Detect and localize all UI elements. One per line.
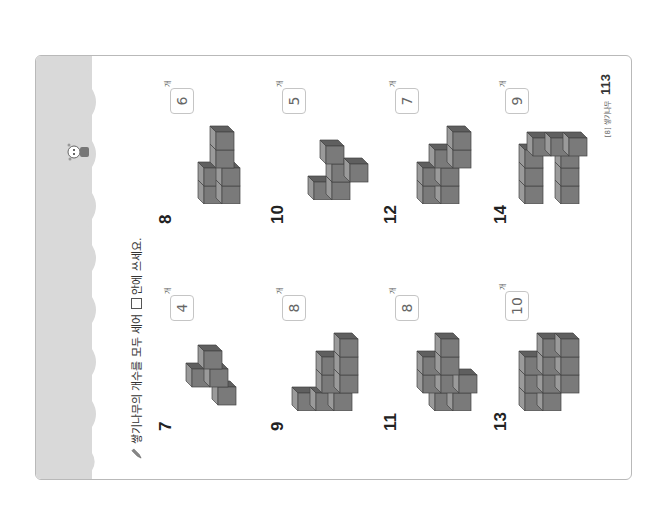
instruction-text-end: 안에 쓰세요. [128,238,144,295]
problem-12: 12 7 개 [381,55,491,224]
problem-number: 8 [156,215,176,224]
problem-11: 11 8 개 [381,231,491,431]
unit-label: 개 [387,288,397,294]
answer-box[interactable]: 9 [505,88,529,114]
problem-number: 11 [381,413,401,431]
answer-box[interactable]: 10 [505,291,529,321]
header-band [36,56,92,479]
problem-9: 9 8 개 [268,231,378,431]
problem-number: 10 [268,205,288,224]
problem-13: 13 10 개 [491,231,601,431]
problem-number: 9 [268,422,288,431]
mascot-illustration [66,141,92,163]
cube-figure [178,321,258,411]
unit-label: 개 [387,81,397,87]
unit-label: 개 [497,81,507,87]
unit-label: 개 [162,81,172,87]
problem-14: 14 9 개 [491,55,601,224]
problem-8: 8 6 개 [156,55,266,224]
problem-10: 10 5 개 [268,55,378,224]
pencil-icon [131,448,142,459]
instruction: 쌓기나무의 개수를 모두 세어 안에 쓰세요. [128,238,144,460]
answer-box[interactable]: 8 [395,295,419,321]
answer-box[interactable]: 8 [282,295,306,321]
unit-label: 개 [274,288,284,294]
chapter-label: [8] 쌓기나무 [602,101,612,137]
worksheet-page: 쌓기나무의 개수를 모두 세어 안에 쓰세요. 7 4 개 8 [35,55,632,480]
page-frame: 쌓기나무의 개수를 모두 세어 안에 쓰세요. 7 4 개 8 [35,55,632,480]
answer-box[interactable]: 4 [170,295,194,321]
answer-box[interactable]: 6 [170,88,194,114]
answer-box[interactable]: 5 [282,88,306,114]
unit-label: 개 [274,81,284,87]
cube-figure [290,100,370,200]
problem-number: 14 [491,205,511,224]
instruction-text: 쌓기나무의 개수를 모두 세어 [128,314,144,445]
problem-number: 13 [491,412,511,431]
page-number: 113 [598,74,613,95]
unit-label: 개 [497,284,507,290]
answer-box-symbol [131,299,142,310]
page-footer: [8] 쌓기나무 113 [598,74,613,137]
problem-7: 7 4 개 [156,231,266,431]
unit-label: 개 [162,288,172,294]
problem-number: 12 [381,205,401,224]
wavy-edge [84,55,100,479]
answer-box[interactable]: 7 [395,88,419,114]
problem-number: 7 [156,422,176,431]
